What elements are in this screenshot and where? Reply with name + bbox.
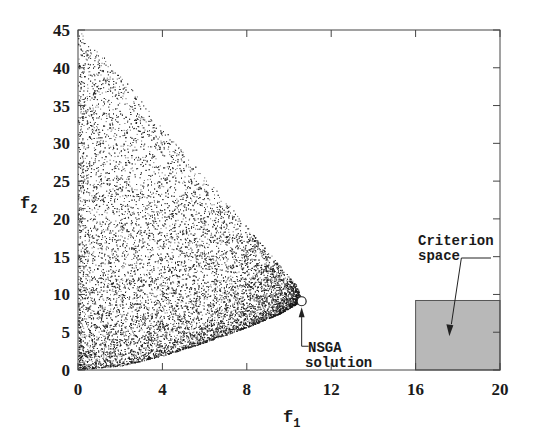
svg-text:15: 15	[53, 248, 70, 267]
svg-text:12: 12	[323, 380, 340, 399]
svg-text:35: 35	[53, 97, 70, 116]
svg-text:45: 45	[53, 21, 70, 40]
svg-text:40: 40	[53, 59, 70, 78]
scatter-chart: 048121620 051015202530354045 f1 f2 NSGA …	[0, 0, 535, 445]
svg-text:25: 25	[53, 172, 70, 191]
svg-text:20: 20	[492, 380, 509, 399]
svg-text:16: 16	[407, 380, 424, 399]
y-axis-label: f2	[20, 194, 37, 217]
svg-text:8: 8	[243, 380, 252, 399]
svg-text:20: 20	[53, 210, 70, 229]
svg-text:4: 4	[158, 380, 167, 399]
criterion-label-line1: Criterion	[418, 233, 494, 249]
x-tick-labels: 048121620	[74, 380, 509, 399]
criterion-label-line2: space	[418, 248, 460, 264]
nsga-label-line2: solution	[305, 355, 372, 371]
svg-text:0: 0	[74, 380, 83, 399]
nsga-label-line1: NSGA	[308, 340, 342, 356]
nsga-arrowhead	[299, 307, 305, 317]
svg-text:5: 5	[62, 323, 71, 342]
svg-text:10: 10	[53, 285, 70, 304]
svg-text:0: 0	[62, 361, 71, 380]
svg-text:30: 30	[53, 134, 70, 153]
criterion-space-box	[416, 300, 500, 370]
x-axis-label: f1	[283, 408, 300, 431]
nsga-solution-marker	[297, 297, 306, 306]
y-tick-labels: 051015202530354045	[53, 21, 70, 380]
feasible-point-cloud	[78, 34, 303, 370]
